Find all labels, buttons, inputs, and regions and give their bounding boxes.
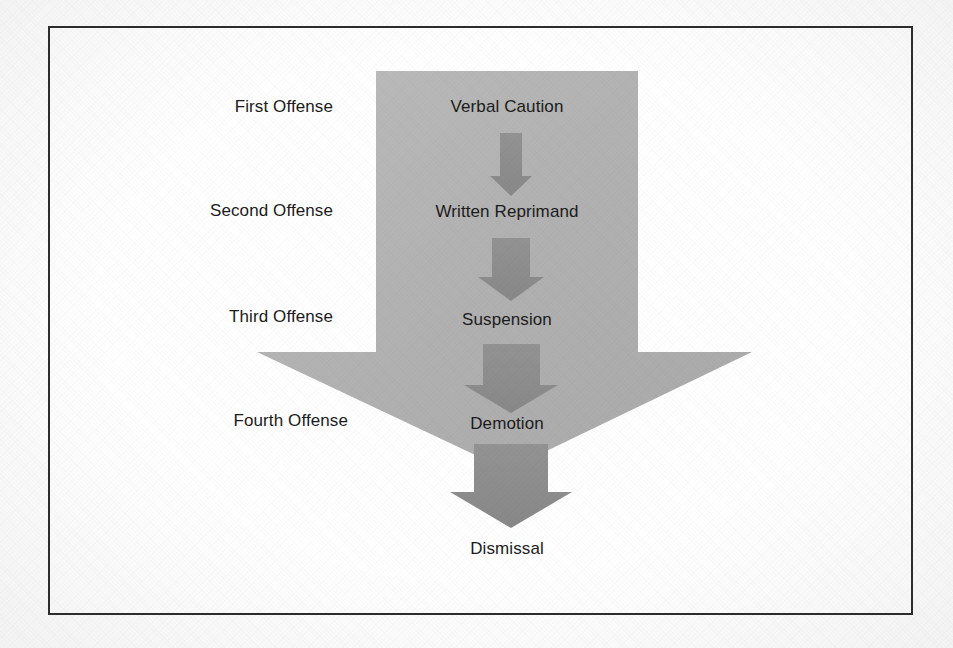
action-label-demotion: Demotion	[470, 414, 544, 434]
offense-label-fourth: Fourth Offense	[145, 411, 348, 431]
diagram-canvas: First Offense Second Offense Third Offen…	[0, 0, 953, 648]
offense-label-first: First Offense	[130, 97, 333, 117]
offense-label-second: Second Offense	[130, 201, 333, 221]
action-label-suspension: Suspension	[462, 310, 552, 330]
action-label-written-reprimand: Written Reprimand	[435, 202, 578, 222]
action-label-verbal-caution: Verbal Caution	[451, 97, 564, 117]
action-label-dismissal: Dismissal	[470, 539, 544, 559]
offense-label-third: Third Offense	[130, 307, 333, 327]
